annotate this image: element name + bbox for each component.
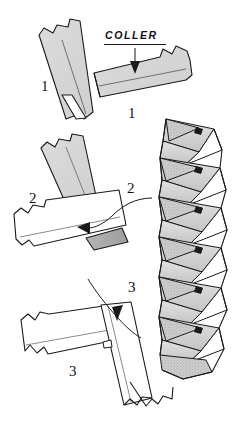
step3-left-number: 3: [69, 364, 77, 379]
step2-left-number: 2: [29, 191, 37, 206]
coller-label: COLLER: [105, 30, 158, 41]
step1-right-number: 1: [128, 106, 136, 121]
coller-underline: [104, 44, 166, 45]
step3-right-number: 3: [128, 280, 136, 295]
instruction-figure: COLLER 1 1 2 2 3 3: [0, 0, 238, 422]
step1-left-number: 1: [41, 79, 49, 94]
step3-tab-notch: [103, 340, 112, 348]
diagram-canvas: [0, 0, 238, 422]
step2-right-number: 2: [127, 181, 135, 196]
